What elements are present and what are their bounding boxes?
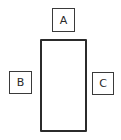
- box-c: C: [92, 72, 114, 95]
- central-rectangle: [40, 39, 87, 132]
- box-a: A: [52, 8, 75, 32]
- box-b-label: B: [17, 76, 25, 89]
- box-b: B: [9, 71, 32, 94]
- box-a-label: A: [60, 14, 68, 27]
- box-c-label: C: [99, 77, 107, 90]
